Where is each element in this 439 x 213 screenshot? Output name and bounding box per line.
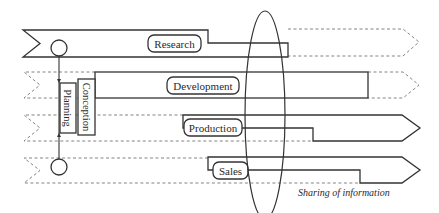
lane-sales: Sales — [24, 157, 420, 183]
production-label: Production — [189, 122, 238, 134]
conception-box-group: Conception — [78, 79, 95, 135]
start-circle — [51, 40, 67, 56]
sales-label: Sales — [219, 165, 242, 177]
research-dashed-arrow — [288, 29, 419, 56]
end-circle — [51, 159, 67, 175]
process-diagram: Research Development Production Sales Pl… — [0, 0, 439, 213]
research-label: Research — [154, 38, 195, 50]
conception-label: Conception — [81, 83, 92, 132]
planning-label: Planning — [62, 89, 73, 127]
planning-box-group: Planning — [60, 83, 76, 133]
development-label: Development — [173, 80, 232, 92]
lane-research: Research — [23, 29, 419, 57]
ellipse-caption: Sharing of information — [298, 187, 390, 198]
